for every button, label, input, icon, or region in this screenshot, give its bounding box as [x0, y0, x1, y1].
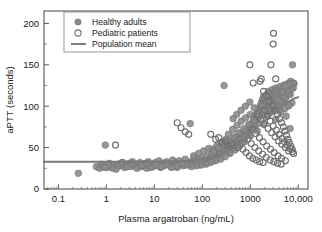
x-axis-title: Plasma argatroban (ng/mL) — [118, 213, 234, 224]
data-point — [289, 62, 296, 69]
y-tick-labels: 050100150200 — [23, 18, 39, 195]
y-tick-label: 50 — [28, 142, 39, 153]
data-point — [75, 170, 82, 177]
x-tick-label: 100 — [194, 193, 210, 204]
chart-figure: 0.1110100100010,000 050100150200 Plasma … — [0, 0, 322, 232]
scatter-plot: 0.1110100100010,000 050100150200 Plasma … — [0, 0, 322, 232]
data-point — [283, 113, 290, 120]
y-tick-label: 200 — [23, 18, 39, 29]
legend-label-pediatric-patients: Pediatric patients — [92, 28, 158, 38]
x-tick-label: 1 — [104, 193, 109, 204]
legend-marker-healthy-adults — [75, 19, 81, 25]
x-tick-labels: 0.1110100100010,000 — [52, 193, 313, 204]
legend-label-healthy-adults: Healthy adults — [92, 17, 146, 27]
y-tick-label: 0 — [34, 183, 39, 194]
data-point — [187, 120, 194, 127]
legend-label-population-mean: Population mean — [92, 39, 157, 49]
data-point — [102, 142, 109, 149]
y-axis-title: aPTT (seconds) — [4, 66, 15, 133]
data-point — [279, 89, 286, 96]
y-tick-label: 100 — [23, 101, 39, 112]
data-point — [101, 164, 108, 171]
legend-marker-pediatric-patients — [75, 30, 81, 36]
x-tick-label: 1000 — [240, 193, 261, 204]
legend: Healthy adults Pediatric patients Popula… — [64, 12, 190, 52]
x-tick-label: 0.1 — [52, 193, 65, 204]
data-point — [221, 82, 228, 89]
data-point — [247, 99, 254, 106]
y-tick-label: 150 — [23, 59, 39, 70]
x-tick-label: 10 — [149, 193, 160, 204]
x-tick-label: 10,000 — [284, 193, 313, 204]
